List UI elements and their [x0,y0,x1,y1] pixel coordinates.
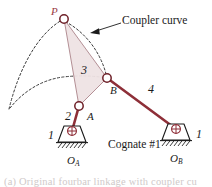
coupler-curve-leader [90,23,121,35]
label-pivot-OB: OB [170,153,183,165]
revolute-joint-icon-B [103,74,111,82]
revolute-joint-icon-P [60,15,68,23]
label-point-P: P [51,6,58,17]
label-link-2: 2 [65,110,71,122]
ground-pivot-icon-OA [56,126,88,148]
label-joint-B: B [110,85,117,96]
ground-pivot-icon-OB [160,124,192,146]
link-4-rocker [107,78,176,129]
label-coupler-curve: Coupler curve [122,15,187,27]
label-joint-A: A [87,111,94,122]
fourbar-linkage-figure: P Coupler curve 3 4 B A 2 1 1 OA OB Cogn… [0,0,212,187]
label-ground-right: 1 [196,128,202,140]
label-link-4: 4 [148,83,154,95]
label-cognate: Cognate #1 [108,139,161,151]
label-pivot-OA-letter: O [67,154,75,166]
label-link-3: 3 [81,64,87,76]
label-pivot-OB-subscript: B [178,157,183,166]
label-pivot-OB-letter: O [170,152,178,164]
label-pivot-OA: OA [67,155,80,167]
revolute-joint-icon-A [75,102,83,110]
label-pivot-OA-subscript: A [75,159,80,168]
label-ground-left: 1 [48,129,54,141]
arrow-icon [90,28,100,34]
figure-caption: (a) Original fourbar linkage with couple… [4,176,197,187]
